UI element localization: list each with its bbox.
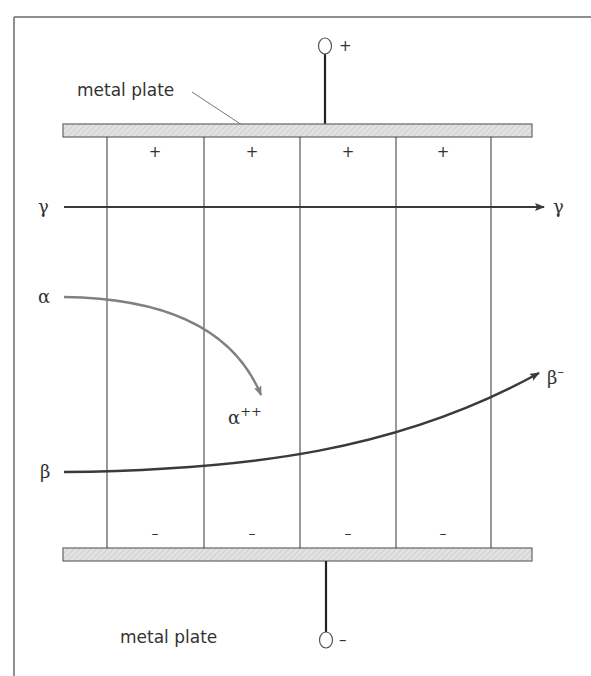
bottom-terminal: – — [320, 561, 347, 649]
top-plate-label: metal plate — [77, 80, 174, 100]
alpha-path-arrow — [64, 297, 261, 395]
bottom-plate-label: metal plate — [120, 627, 217, 647]
beta-start-label: β — [40, 461, 50, 482]
top-metal-plate — [63, 124, 532, 137]
figure-frame — [14, 17, 591, 676]
positive-charge-sign: + — [149, 143, 162, 161]
alpha-start-label: α — [38, 286, 50, 307]
positive-charge-sign: + — [342, 143, 355, 161]
alpha-end-label: α++ — [228, 404, 262, 428]
field-lines — [107, 137, 491, 548]
beta-end-label: β– — [547, 364, 564, 388]
gamma-start-label: γ — [38, 196, 49, 217]
negative-charge-sign: – — [249, 525, 256, 541]
negative-charge-sign: – — [345, 525, 352, 541]
gamma-end-label: γ — [553, 196, 564, 217]
top-plate-leader-line — [192, 92, 242, 125]
top-terminal-sign: + — [339, 37, 352, 55]
beta-path-arrow — [64, 373, 539, 472]
positive-charge-sign: + — [437, 143, 450, 161]
negative-charge-sign: – — [152, 525, 159, 541]
bottom-charge-signs: – – – – — [152, 525, 447, 541]
gamma-ray: γ γ — [38, 196, 564, 217]
radiation-deflection-diagram: + metal plate + + + + – – – – γ γ α α — [0, 0, 591, 676]
alpha-ray: α α++ — [38, 286, 262, 428]
beta-ray: β β– — [40, 364, 564, 482]
bottom-terminal-circle-icon — [320, 632, 333, 648]
top-terminal: + — [319, 37, 352, 124]
bottom-terminal-sign: – — [339, 631, 347, 649]
top-charge-signs: + + + + — [149, 143, 450, 161]
bottom-metal-plate — [63, 548, 532, 561]
negative-charge-sign: – — [440, 525, 447, 541]
top-terminal-circle-icon — [319, 38, 332, 54]
positive-charge-sign: + — [246, 143, 259, 161]
